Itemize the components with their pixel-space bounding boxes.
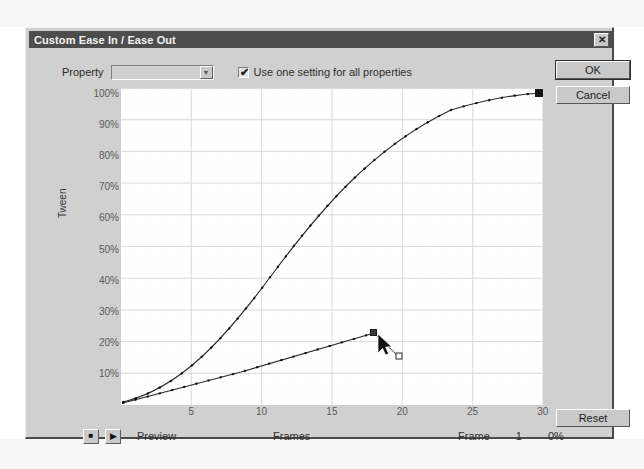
preview-label: Preview [137, 430, 176, 442]
property-label: Property [62, 66, 104, 78]
reset-button[interactable]: Reset [556, 409, 630, 427]
property-dropdown[interactable]: ▼ [111, 65, 214, 80]
selected-control-point[interactable] [371, 330, 377, 336]
frame-readout-label: Frame [458, 430, 490, 442]
check-icon: ✔ [240, 67, 249, 78]
ease-graph-panel: Tween 100%90%80%70%60%50%40%30%20%10% [58, 88, 543, 426]
play-icon[interactable]: ▶ [105, 429, 121, 444]
y-axis-tick: 90% [99, 119, 119, 130]
y-axis-tick: 80% [99, 150, 119, 161]
y-axis-ticks: 100%90%80%70%60%50%40%30%20%10% [71, 88, 119, 426]
x-axis-tick: 20 [397, 406, 408, 417]
x-axis-tick: 15 [326, 406, 337, 417]
y-axis-tick: 30% [99, 305, 119, 316]
x-axis-tick: 10 [256, 406, 267, 417]
x-axis-tick: 25 [467, 406, 478, 417]
screenshot-root: Custom Ease In / Ease Out ✕ Property ▼ ✔… [0, 0, 644, 469]
frame-readout: Frame 1 0% [458, 430, 564, 442]
ease-curve-plot[interactable] [121, 88, 543, 405]
frame-readout-percent: 0% [548, 430, 564, 442]
y-axis-tick: 70% [99, 181, 119, 192]
property-row: Property ▼ ✔ Use one setting for all pro… [62, 61, 532, 83]
use-one-setting-label: Use one setting for all properties [254, 66, 412, 78]
stop-icon[interactable]: ■ [83, 429, 99, 444]
y-axis-tick: 20% [99, 336, 119, 347]
chevron-down-icon[interactable]: ▼ [200, 66, 213, 79]
close-icon[interactable]: ✕ [594, 33, 609, 47]
x-axis-tick: 30 [537, 406, 548, 417]
frame-readout-value: 1 [516, 430, 522, 442]
x-axis-ticks: 51015202530 [121, 406, 543, 422]
x-axis-tick: 5 [189, 406, 195, 417]
property-dropdown-value [112, 66, 200, 79]
stop-glyph: ■ [89, 432, 94, 440]
y-axis-tick: 50% [99, 243, 119, 254]
paper-background-top [0, 0, 644, 27]
y-axis-tick: 40% [99, 274, 119, 285]
curve-canvas[interactable] [121, 88, 543, 405]
x-axis-title: Frames [273, 430, 310, 442]
cancel-button[interactable]: Cancel [556, 86, 630, 104]
custom-ease-dialog: Custom Ease In / Ease Out ✕ Property ▼ ✔… [25, 27, 614, 439]
play-glyph: ▶ [110, 432, 117, 441]
y-axis-tick: 10% [99, 367, 119, 378]
checkbox-box[interactable]: ✔ [238, 67, 249, 78]
tangent-handle-point[interactable] [396, 353, 402, 359]
y-axis-tick: 60% [99, 212, 119, 223]
curve-end-marker[interactable] [535, 89, 543, 97]
ok-button[interactable]: OK [556, 61, 630, 79]
dialog-title: Custom Ease In / Ease Out [29, 34, 176, 46]
dialog-titlebar: Custom Ease In / Ease Out ✕ [29, 31, 612, 48]
preview-bar: ■ ▶ Preview Frames Frame 1 0% [58, 426, 543, 446]
y-axis-tick: 100% [93, 88, 119, 99]
y-axis-title: Tween [57, 189, 68, 218]
use-one-setting-checkbox[interactable]: ✔ Use one setting for all properties [238, 66, 412, 78]
